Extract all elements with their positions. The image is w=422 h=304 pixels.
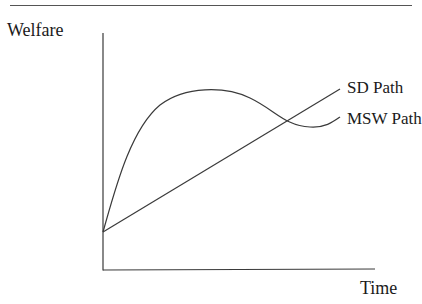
msw-path-label: MSW Path [347, 110, 422, 127]
x-axis-label: Time [360, 279, 397, 297]
sd-path-label: SD Path [347, 79, 403, 96]
x-axis [103, 269, 375, 270]
sd-path-line [103, 89, 340, 232]
